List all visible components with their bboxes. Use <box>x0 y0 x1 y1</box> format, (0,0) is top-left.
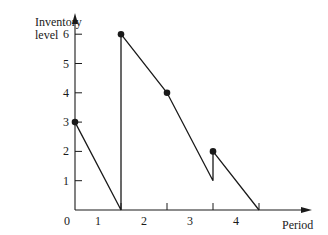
y-tick-label: 5 <box>57 57 69 72</box>
axes <box>72 13 312 213</box>
y-ticks <box>75 34 82 181</box>
y-tick-label: 3 <box>57 115 69 130</box>
data-point-marker <box>164 90 171 97</box>
data-point-marker <box>210 148 217 155</box>
x-ticks <box>121 203 259 210</box>
x-tick-label: 4 <box>230 214 242 229</box>
y-tick-label: 2 <box>57 144 69 159</box>
y-tick-label: 6 <box>57 27 69 42</box>
x-tick-label: 2 <box>138 214 150 229</box>
inventory-series-line <box>75 34 259 210</box>
x-tick-label: 1 <box>92 214 104 229</box>
x-axis-label: Period <box>282 219 313 232</box>
y-tick-label: 4 <box>57 86 69 101</box>
data-point-marker <box>118 31 125 38</box>
x-axis-arrow <box>301 207 312 213</box>
data-markers <box>72 31 217 155</box>
x-tick-label: 3 <box>184 214 196 229</box>
x-origin-label: 0 <box>61 214 73 229</box>
data-point-marker <box>72 119 79 126</box>
y-tick-label: 1 <box>57 174 69 189</box>
